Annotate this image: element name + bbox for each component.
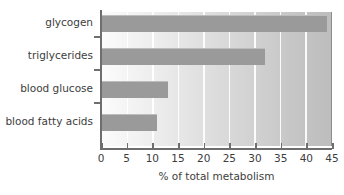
x-ticklabel-10: 10 [142,152,162,164]
x-ticklabel-40: 40 [296,152,316,164]
x-ticklabel-35: 35 [271,152,291,164]
bar-chart: glycogen triglycerides blood glucose blo… [0,0,344,195]
x-ticklabel-5: 5 [117,152,137,164]
x-tick-15 [178,143,180,149]
x-tick-20 [204,143,206,149]
gridline-25 [229,12,231,146]
x-tick-5 [127,143,129,149]
bar-blood-glucose [101,81,168,98]
x-tick-30 [255,143,257,149]
x-ticklabel-0: 0 [91,152,111,164]
gridline-40 [305,12,307,146]
category-label-blood-fatty-acids: blood fatty acids [0,116,93,127]
y-axis-line [100,10,102,150]
x-ticklabel-15: 15 [168,152,188,164]
bar-triglycerides [101,48,265,65]
gridline-20 [203,12,205,146]
x-ticklabel-30: 30 [245,152,265,164]
gridline-35 [280,12,282,146]
x-ticklabel-20: 20 [194,152,214,164]
category-label-glycogen: glycogen [0,17,93,28]
y-tick-2 [94,69,100,71]
x-tick-0 [101,143,103,149]
x-ticklabel-25: 25 [219,152,239,164]
gridline-15 [178,12,180,146]
gridline-30 [254,12,256,146]
category-label-blood-glucose: blood glucose [0,83,93,94]
category-label-triglycerides: triglycerides [0,50,93,61]
x-tick-25 [229,143,231,149]
y-tick-3 [94,102,100,104]
x-axis-title: % of total metabolism [101,170,332,182]
bar-glycogen [101,15,327,32]
plot-area [101,12,332,146]
y-tick-1 [94,36,100,38]
x-tick-40 [306,143,308,149]
x-tick-10 [152,143,154,149]
category-axis-labels: glycogen triglycerides blood glucose blo… [0,12,97,146]
x-tick-35 [281,143,283,149]
x-tick-45 [332,143,334,149]
x-ticklabel-45: 45 [322,152,342,164]
x-axis-line [100,148,332,150]
bar-blood-fatty-acids [101,114,157,131]
